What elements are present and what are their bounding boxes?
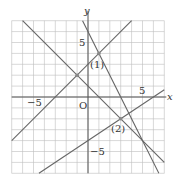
intersection-point (75, 73, 79, 77)
point-1-label: (1) (90, 59, 104, 70)
intersection-point (119, 117, 123, 121)
y-tick-pos5: 5 (79, 37, 85, 48)
x-axis-label: x (167, 91, 173, 102)
intersection-point (97, 52, 101, 56)
origin-label: O (79, 100, 87, 111)
coordinate-plane: y x O −5 5 5 −5 (1) (2) (0, 0, 180, 183)
point-2-label: (2) (111, 123, 125, 134)
y-axis-label: y (83, 5, 90, 16)
line-d (39, 90, 164, 174)
x-tick-neg5: −5 (27, 97, 42, 108)
y-tick-neg5: −5 (90, 146, 105, 157)
x-tick-pos5: 5 (139, 85, 145, 96)
